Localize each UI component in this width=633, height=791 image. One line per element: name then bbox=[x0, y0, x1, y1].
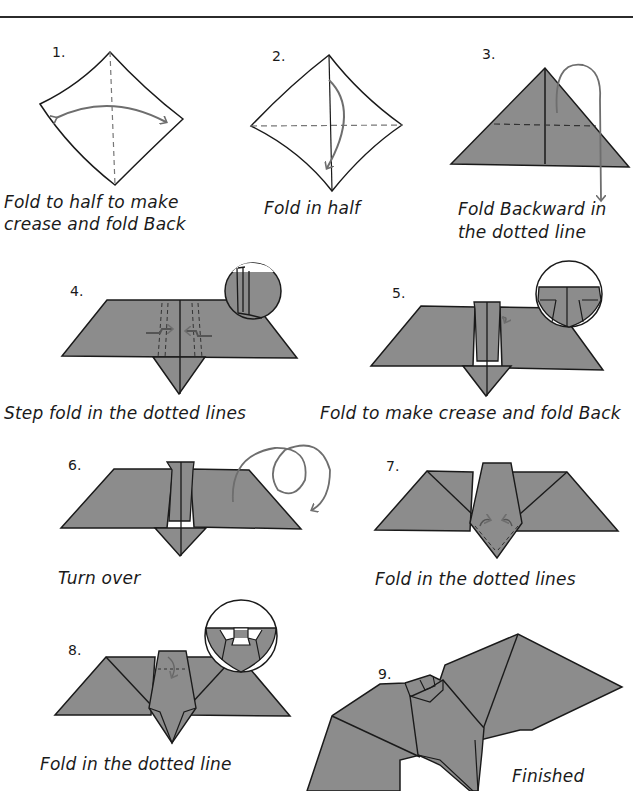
step-number-3: 3. bbox=[482, 46, 495, 62]
step-1-caption-line2: crease and fold Back bbox=[4, 214, 186, 235]
step-8-figure bbox=[55, 600, 290, 743]
origami-bat-instructions: 1. 2. 3. 4. 5. 6. 7. 8. 9. Fold to half … bbox=[0, 0, 633, 791]
step-5-figure bbox=[371, 261, 603, 396]
step-1-caption-line1: Fold to half to make bbox=[4, 192, 179, 213]
step-7-caption: Fold in the dotted lines bbox=[375, 569, 576, 590]
step-5-caption: Fold to make crease and fold Back bbox=[320, 403, 621, 424]
step-3-caption-line1: Fold Backward in bbox=[458, 199, 607, 220]
step-7-figure bbox=[375, 463, 618, 558]
step-number-6: 6. bbox=[68, 457, 81, 473]
step-2-caption: Fold in half bbox=[264, 198, 360, 219]
step-number-8: 8. bbox=[68, 642, 81, 658]
step-number-5: 5. bbox=[392, 285, 405, 301]
step-number-2: 2. bbox=[272, 48, 285, 64]
step-4-figure bbox=[62, 263, 297, 394]
step-4-caption: Step fold in the dotted lines bbox=[4, 403, 246, 424]
diagram-canvas bbox=[0, 0, 633, 791]
step-8-caption: Fold in the dotted line bbox=[40, 754, 232, 775]
step-2-figure bbox=[251, 55, 402, 191]
step-3-caption-line2: the dotted line bbox=[458, 222, 586, 243]
step-number-4: 4. bbox=[70, 283, 83, 299]
step-number-9: 9. bbox=[378, 666, 391, 682]
step-3-figure bbox=[451, 65, 629, 200]
step-6-figure bbox=[61, 446, 330, 557]
step-9-caption: Finished bbox=[512, 766, 584, 787]
step-1-figure bbox=[40, 52, 183, 185]
step-number-1: 1. bbox=[52, 44, 65, 60]
step-number-7: 7. bbox=[386, 458, 399, 474]
step-6-caption: Turn over bbox=[58, 568, 140, 589]
